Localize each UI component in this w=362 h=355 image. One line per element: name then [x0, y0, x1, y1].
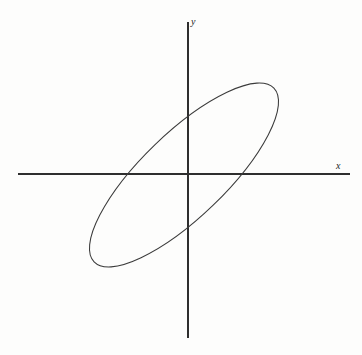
rotated-ellipse-curve	[65, 58, 303, 292]
ellipse-figure: y x	[0, 0, 362, 355]
x-axis-label: x	[336, 161, 340, 171]
plot-canvas	[0, 0, 362, 355]
y-axis-label: y	[191, 17, 195, 27]
